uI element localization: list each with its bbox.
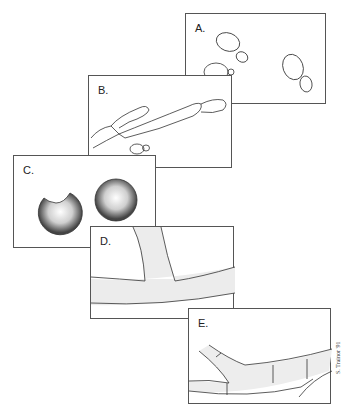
panel-e: E. — [188, 308, 331, 404]
svg-text:S. Trainor '91: S. Trainor '91 — [335, 341, 341, 374]
panel-d: D. — [90, 226, 234, 319]
branching-hypha-illustration — [91, 227, 235, 320]
artist-signature: S. Trainor '91 — [331, 330, 343, 375]
septate-hyphae-illustration — [189, 309, 332, 405]
